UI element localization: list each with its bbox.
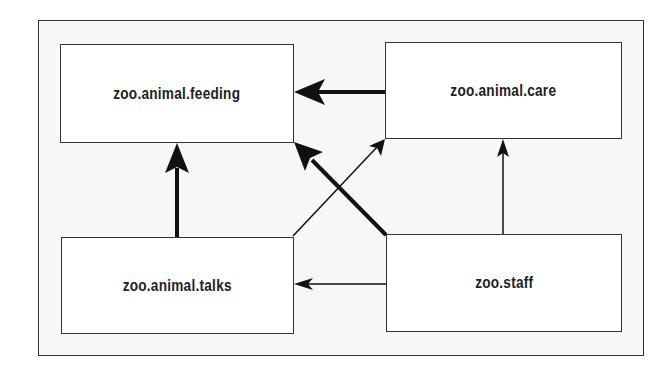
- arrow-staff-to-talks: [294, 278, 386, 290]
- node-zoo-animal-feeding: zoo.animal.feeding: [60, 44, 294, 143]
- node-label: zoo.animal.care: [451, 82, 557, 100]
- arrow-care-to-feeding: [294, 79, 385, 105]
- node-zoo-animal-care: zoo.animal.care: [385, 42, 622, 139]
- node-label: zoo.animal.talks: [123, 277, 232, 295]
- node-label: zoo.staff: [475, 274, 533, 292]
- arrow-talks-to-feeding: [165, 143, 189, 237]
- arrow-staff-to-care: [497, 139, 509, 234]
- node-zoo-staff: zoo.staff: [386, 234, 622, 332]
- node-label: zoo.animal.feeding: [113, 85, 240, 103]
- node-zoo-animal-talks: zoo.animal.talks: [61, 237, 294, 334]
